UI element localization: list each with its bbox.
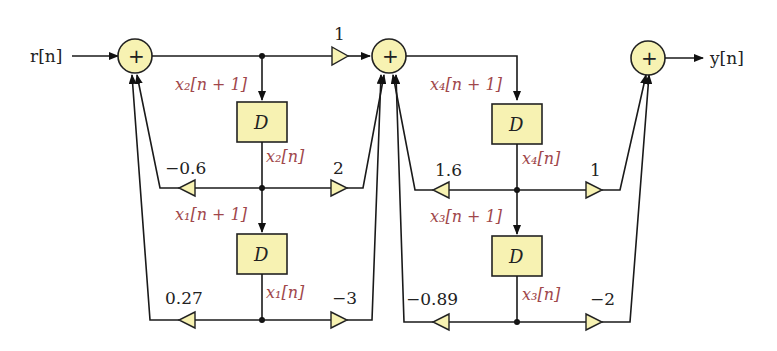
summing-junction-1: + (118, 39, 152, 73)
gain-forward-upper-2 (586, 182, 602, 198)
gain-forward-lower-1-label: −3 (332, 288, 357, 308)
output-label: y[n] (709, 48, 744, 68)
gain-forward-lower-2 (586, 314, 602, 330)
delay-block-x2: D (237, 102, 287, 142)
svg-text:D: D (253, 244, 269, 265)
gain-feedback-upper-1-label: −0.6 (165, 158, 206, 178)
gain-forward-upper-1 (331, 180, 347, 196)
svg-text:+: + (382, 44, 399, 68)
gain-feedback-lower-1-label: 0.27 (165, 288, 203, 308)
state-x3-next: x₃[n + 1] (430, 207, 503, 226)
gain-forward-lower-1 (331, 312, 347, 328)
plus-icon: + (128, 44, 145, 68)
gain-forward-top-label: 1 (334, 24, 345, 44)
svg-text:D: D (508, 114, 524, 135)
gain-feedback-lower-2 (433, 314, 449, 330)
state-x3: x₃[n] (522, 285, 561, 304)
svg-text:D: D (508, 246, 524, 267)
svg-text:D: D (253, 112, 269, 133)
input-label: r[n] (30, 46, 62, 66)
state-x2: x₂[n] (266, 147, 305, 166)
gain-feedback-upper-1 (179, 180, 195, 196)
summing-junction-3: + (631, 41, 665, 75)
state-x4: x₄[n] (522, 149, 561, 168)
gain-feedback-lower-1 (179, 312, 195, 328)
gain-forward-upper-2-label: 1 (590, 160, 601, 180)
svg-text:+: + (641, 46, 658, 70)
gain-forward-top (332, 47, 348, 65)
gain-feedback-upper-2-label: 1.6 (435, 160, 462, 180)
delay-block-x3: D (492, 236, 542, 276)
state-x4-next: x₄[n + 1] (430, 75, 503, 94)
block-diagram: r[n] + 1 x₂[n + 1] D x₂[n] x₁[n + 1] D x… (0, 0, 777, 351)
gain-forward-upper-1-label: 2 (333, 158, 344, 178)
delay-block-x1: D (237, 234, 287, 274)
gain-forward-lower-2-label: −2 (590, 289, 615, 309)
state-x1-next: x₁[n + 1] (175, 205, 248, 224)
state-x1: x₁[n] (266, 283, 305, 302)
summing-junction-2: + (372, 39, 406, 73)
gain-feedback-upper-2 (433, 182, 449, 198)
gain-feedback-lower-2-label: −0.89 (406, 289, 458, 309)
delay-block-x4: D (492, 104, 542, 144)
state-x2-next: x₂[n + 1] (175, 75, 248, 94)
